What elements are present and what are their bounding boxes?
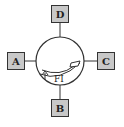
port-a-label: A xyxy=(12,56,20,67)
port-a-box: A xyxy=(7,52,25,70)
port-b-box: B xyxy=(51,99,69,117)
port-b-label: B xyxy=(56,103,64,114)
port-d-label: D xyxy=(56,9,65,20)
port-c-label: C xyxy=(102,56,110,67)
valve-diagram: FI D A C B xyxy=(0,0,124,127)
port-d-box: D xyxy=(51,5,69,23)
port-c-box: C xyxy=(97,52,115,70)
center-label: FI xyxy=(54,74,64,84)
